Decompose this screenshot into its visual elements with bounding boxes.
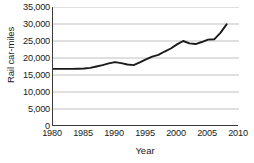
x-tick-label: 1995 — [135, 128, 155, 138]
y-tick-label: 25,000 — [23, 36, 50, 46]
x-tick-label: 1990 — [104, 128, 124, 138]
chart-figure: Rail car-miles 05,00010,00015,00020,0002… — [0, 0, 254, 163]
x-tick-label: 2010 — [228, 128, 248, 138]
data-line — [53, 24, 227, 69]
data-series-group — [53, 24, 227, 69]
x-axis-tick-labels: 1980198519901995200020052010 — [0, 128, 254, 144]
y-tick-label: 30,000 — [23, 19, 50, 29]
y-tick-label: 20,000 — [23, 53, 50, 63]
x-tick-label: 1980 — [42, 128, 62, 138]
y-tick-label: 15,000 — [23, 70, 50, 80]
x-tick-label: 2000 — [166, 128, 186, 138]
y-tick-label: 5,000 — [28, 104, 50, 114]
y-tick-label: 10,000 — [23, 87, 50, 97]
y-tick-label: 35,000 — [23, 2, 50, 12]
plot-area — [52, 7, 238, 126]
x-axis-title: Year — [52, 145, 238, 156]
line-chart-svg — [53, 7, 239, 126]
x-tick-label: 2005 — [197, 128, 217, 138]
x-tick-label: 1985 — [73, 128, 93, 138]
gridlines — [53, 7, 239, 109]
